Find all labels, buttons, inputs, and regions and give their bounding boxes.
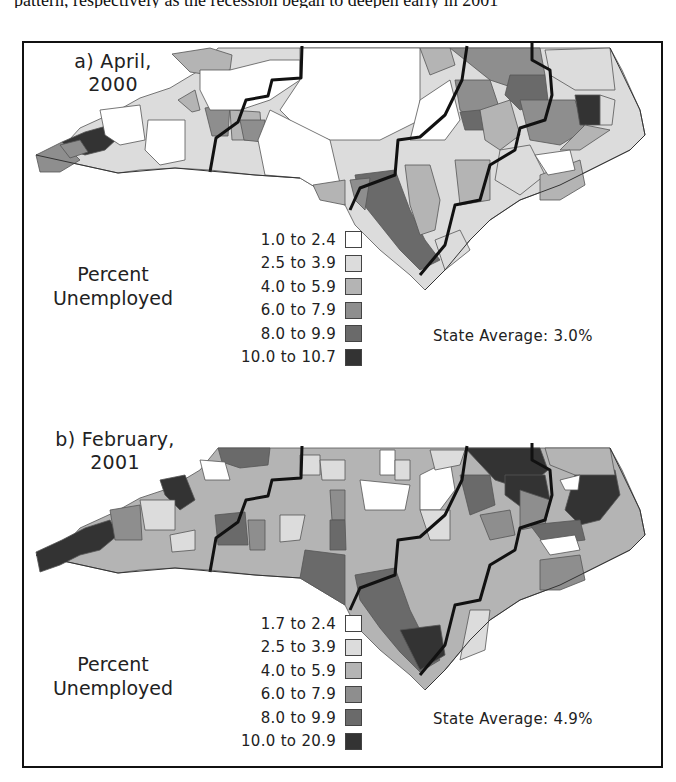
- legend-item: 6.0 to 7.9: [222, 683, 362, 707]
- legend-swatch: [345, 231, 362, 248]
- legend-title-line-2: Unemployed: [38, 286, 188, 310]
- state-average: State Average: 3.0%: [433, 327, 593, 345]
- legend-swatch: [345, 615, 362, 632]
- legend-item: 10.0 to 20.9: [222, 730, 362, 754]
- legend-title-line-1: Percent: [38, 262, 188, 286]
- legend: 1.0 to 2.4 2.5 to 3.9 4.0 to 5.9 6.0 to …: [222, 228, 362, 369]
- legend-swatch: [345, 302, 362, 319]
- legend-item: 4.0 to 5.9: [222, 275, 362, 299]
- legend-label: 10.0 to 10.7: [241, 348, 336, 366]
- legend-swatch: [345, 709, 362, 726]
- legend-swatch: [345, 733, 362, 750]
- legend-label: 2.5 to 3.9: [261, 638, 336, 656]
- legend-item: 8.0 to 9.9: [222, 706, 362, 730]
- legend-label: 8.0 to 9.9: [261, 325, 336, 343]
- legend: 1.7 to 2.4 2.5 to 3.9 4.0 to 5.9 6.0 to …: [222, 612, 362, 753]
- state-average: State Average: 4.9%: [433, 710, 593, 728]
- legend-item: 1.7 to 2.4: [222, 612, 362, 636]
- legend-swatch: [345, 325, 362, 342]
- panel-title: b) February, 2001: [30, 428, 200, 474]
- legend-item: 2.5 to 3.9: [222, 252, 362, 276]
- legend-item: 2.5 to 3.9: [222, 636, 362, 660]
- legend-item: 1.0 to 2.4: [222, 228, 362, 252]
- legend-label: 6.0 to 7.9: [261, 685, 336, 703]
- legend-item: 6.0 to 7.9: [222, 299, 362, 323]
- title-line-1: a) April,: [38, 50, 188, 73]
- legend-title: Percent Unemployed: [38, 652, 188, 700]
- legend-item: 10.0 to 10.7: [222, 346, 362, 370]
- title-line-2: 2001: [30, 451, 200, 474]
- map-panel-april-2000: a) April, 2000 Percent Unemployed 1.0 to…: [0, 0, 676, 390]
- legend-swatch: [345, 662, 362, 679]
- legend-label: 1.7 to 2.4: [261, 615, 336, 633]
- legend-label: 8.0 to 9.9: [261, 709, 336, 727]
- legend-label: 6.0 to 7.9: [261, 301, 336, 319]
- panel-title: a) April, 2000: [38, 50, 188, 96]
- legend-swatch: [345, 686, 362, 703]
- legend-title-line-1: Percent: [38, 652, 188, 676]
- legend-label: 4.0 to 5.9: [261, 662, 336, 680]
- legend-label: 4.0 to 5.9: [261, 278, 336, 296]
- map-panel-february-2001: b) February, 2001 Percent Unemployed 1.7…: [0, 390, 676, 782]
- legend-swatch: [345, 349, 362, 366]
- legend-swatch: [345, 278, 362, 295]
- legend-label: 1.0 to 2.4: [261, 231, 336, 249]
- legend-swatch: [345, 639, 362, 656]
- legend-item: 4.0 to 5.9: [222, 659, 362, 683]
- legend-title: Percent Unemployed: [38, 262, 188, 310]
- legend-label: 2.5 to 3.9: [261, 254, 336, 272]
- legend-item: 8.0 to 9.9: [222, 322, 362, 346]
- legend-swatch: [345, 255, 362, 272]
- legend-label: 10.0 to 20.9: [241, 732, 336, 750]
- title-line-1: b) February,: [30, 428, 200, 451]
- legend-title-line-2: Unemployed: [38, 676, 188, 700]
- title-line-2: 2000: [38, 73, 188, 96]
